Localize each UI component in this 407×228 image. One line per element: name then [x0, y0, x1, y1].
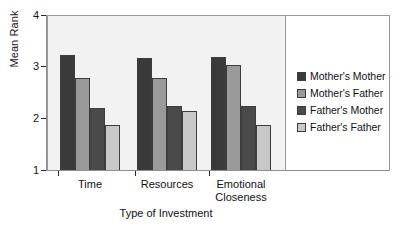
legend-item: Mother's Father [297, 85, 389, 102]
bar-group [211, 16, 271, 171]
y-tick-label-4: 4 [17, 10, 39, 21]
legend-swatch-icon [297, 89, 306, 98]
bar-group [137, 16, 197, 171]
y-tick-label-3: 3 [17, 61, 39, 72]
x-tick-label: Emotional Closeness [196, 178, 286, 204]
x-axis-line [47, 170, 390, 171]
x-tick-mark [135, 171, 136, 176]
bar-chart-figure: Mean Rank 4 3 2 1 TimeResourcesEmotional… [0, 0, 407, 228]
legend-label: Father's Mother [310, 105, 383, 116]
bar [241, 106, 256, 171]
bar [226, 65, 241, 171]
x-tick-mark [58, 171, 59, 176]
legend-label: Mother's Mother [310, 71, 386, 82]
bar [75, 78, 90, 171]
legend-item: Father's Mother [297, 102, 389, 119]
legend-item: Mother's Mother [297, 68, 389, 85]
x-axis-title: Type of Investment [47, 207, 285, 219]
y-tick-label-1: 1 [17, 165, 39, 176]
bar [182, 111, 197, 171]
bar [152, 78, 167, 171]
x-tick-mark [209, 171, 210, 176]
legend-item: Father's Father [297, 119, 389, 136]
bar [256, 125, 271, 172]
y-tick-label-2: 2 [17, 113, 39, 124]
bar [211, 57, 226, 171]
legend-swatch-icon [297, 106, 306, 115]
legend-label: Father's Father [310, 122, 381, 133]
bar [60, 55, 75, 171]
bar [90, 108, 105, 171]
bar-group [60, 16, 120, 171]
legend-swatch-icon [297, 72, 306, 81]
legend-label: Mother's Father [310, 88, 383, 99]
plot-area [48, 16, 285, 171]
bar [105, 125, 120, 172]
panel-divider [285, 15, 286, 171]
legend: Mother's MotherMother's FatherFather's M… [297, 68, 389, 136]
legend-swatch-icon [297, 123, 306, 132]
bar [137, 58, 152, 171]
bar [167, 106, 182, 171]
